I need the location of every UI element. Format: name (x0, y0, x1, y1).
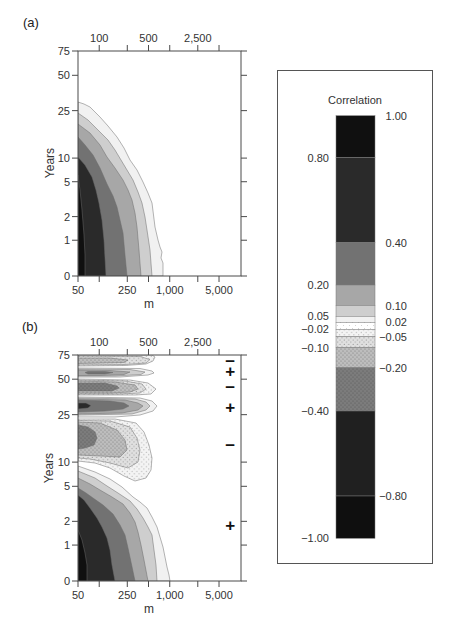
y-tick-label: 1 (64, 539, 70, 551)
x-tick-label-bottom: 5,000 (205, 589, 233, 601)
sign-marker-minus: − (225, 438, 235, 454)
x-tick-label-bottom: 250 (118, 284, 136, 296)
generated-labels-layer: 501002505001,0002,5005,00001251025507550… (0, 0, 452, 629)
x-tick-label-top: 100 (90, 32, 108, 44)
y-tick-label: 10 (58, 456, 70, 468)
sign-marker-minus: − (225, 380, 235, 396)
x-tick-label-top: 2,500 (184, 336, 212, 348)
x-tick-label-top: 500 (139, 32, 157, 44)
colorbar-label-right: 1.00 (386, 110, 407, 122)
y-tick-label: 5 (64, 176, 70, 188)
x-tick-label-top: 500 (139, 336, 157, 348)
colorbar-label-left: −0.02 (301, 323, 329, 335)
y-tick-label: 2 (64, 211, 70, 223)
y-tick-label: 75 (58, 45, 70, 57)
x-tick-label-bottom: 50 (72, 589, 84, 601)
colorbar-label-left: 0.20 (308, 279, 329, 291)
colorbar-label-right: 0.02 (386, 316, 407, 328)
y-tick-label: 0 (64, 270, 70, 282)
sign-marker-plus: + (225, 518, 235, 534)
y-tick-label: 2 (64, 515, 70, 527)
figure-canvas: (a) m Years (b) m Years Correlation 5010… (0, 0, 452, 629)
x-tick-label-bottom: 1,000 (156, 284, 184, 296)
sign-marker-plus: + (225, 400, 235, 416)
x-tick-label-bottom: 1,000 (156, 589, 184, 601)
y-tick-label: 1 (64, 234, 70, 246)
colorbar-label-left: −0.10 (301, 342, 329, 354)
colorbar-label-right: 0.40 (386, 237, 407, 249)
colorbar-label-left: −1.00 (301, 532, 329, 544)
x-tick-label-top: 2,500 (184, 32, 212, 44)
x-tick-label-bottom: 250 (118, 589, 136, 601)
colorbar-label-left: −0.40 (301, 405, 329, 417)
y-tick-label: 50 (58, 373, 70, 385)
x-tick-label-bottom: 5,000 (205, 284, 233, 296)
y-tick-label: 0 (64, 575, 70, 587)
colorbar-label-right: −0.20 (379, 362, 407, 374)
colorbar-label-left: 0.80 (308, 152, 329, 164)
y-tick-label: 5 (64, 480, 70, 492)
colorbar-label-right: 0.10 (386, 300, 407, 312)
x-tick-label-bottom: 50 (72, 284, 84, 296)
y-tick-label: 10 (58, 152, 70, 164)
y-tick-label: 50 (58, 69, 70, 81)
y-tick-label: 25 (58, 105, 70, 117)
y-tick-label: 25 (58, 409, 70, 421)
colorbar-label-left: 0.05 (308, 310, 329, 322)
colorbar-label-right: −0.05 (379, 331, 407, 343)
x-tick-label-top: 100 (90, 336, 108, 348)
y-tick-label: 75 (58, 349, 70, 361)
colorbar-label-right: −0.80 (379, 490, 407, 502)
